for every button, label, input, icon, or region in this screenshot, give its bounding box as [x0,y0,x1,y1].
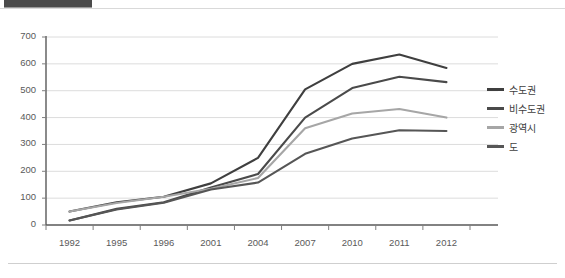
header-title-bar [4,0,92,8]
legend-swatch-icon [487,145,504,148]
x-axis-tick-label: 2011 [379,237,419,248]
y-axis-tick-label: 600 [8,57,36,68]
chart-page: 0100200300400500600700 19921995199620012… [0,0,565,278]
legend-label: 수도권 [509,82,536,97]
x-axis-tick-label: 2004 [238,237,278,248]
legend-item-4[interactable]: 도 [487,137,563,156]
legend-swatch-icon [487,107,504,110]
x-axis-tick-label: 2007 [285,237,325,248]
x-axis-tick-label: 1996 [144,237,184,248]
legend-item-3[interactable]: 광역시 [487,118,563,137]
legend-label: 비수도권 [509,101,545,116]
y-axis-tick-label: 100 [8,191,36,202]
y-axis-tick-label: 700 [8,30,36,41]
y-axis-tick-label: 300 [8,137,36,148]
x-axis-tick-label: 2012 [426,237,466,248]
legend-swatch-icon [487,126,504,129]
series-lines [70,54,447,220]
line-chart: 0100200300400500600700 19921995199620012… [0,12,565,260]
x-axis-tick-label: 1995 [97,237,137,248]
x-axis-tick-label: 2001 [191,237,231,248]
legend-swatch-icon [487,88,504,91]
axis-ticks [42,37,470,230]
y-axis-tick-label: 500 [8,84,36,95]
y-axis-tick-label: 200 [8,164,36,175]
top-divider [0,8,565,9]
x-axis-tick-label: 1992 [50,237,90,248]
legend-item-2[interactable]: 비수도권 [487,99,563,118]
y-axis-tick-label: 400 [8,111,36,122]
series-line-2 [70,77,447,221]
legend-label: 도 [509,139,518,154]
y-axis-tick-label: 0 [8,218,36,229]
legend-label: 광역시 [509,120,536,135]
legend-item-1[interactable]: 수도권 [487,80,563,99]
chart-legend: 수도권비수도권광역시도 [487,80,563,156]
chart-plot-svg [0,12,565,260]
bottom-divider [8,263,557,264]
x-axis-tick-label: 2010 [332,237,372,248]
series-line-3 [70,109,447,212]
